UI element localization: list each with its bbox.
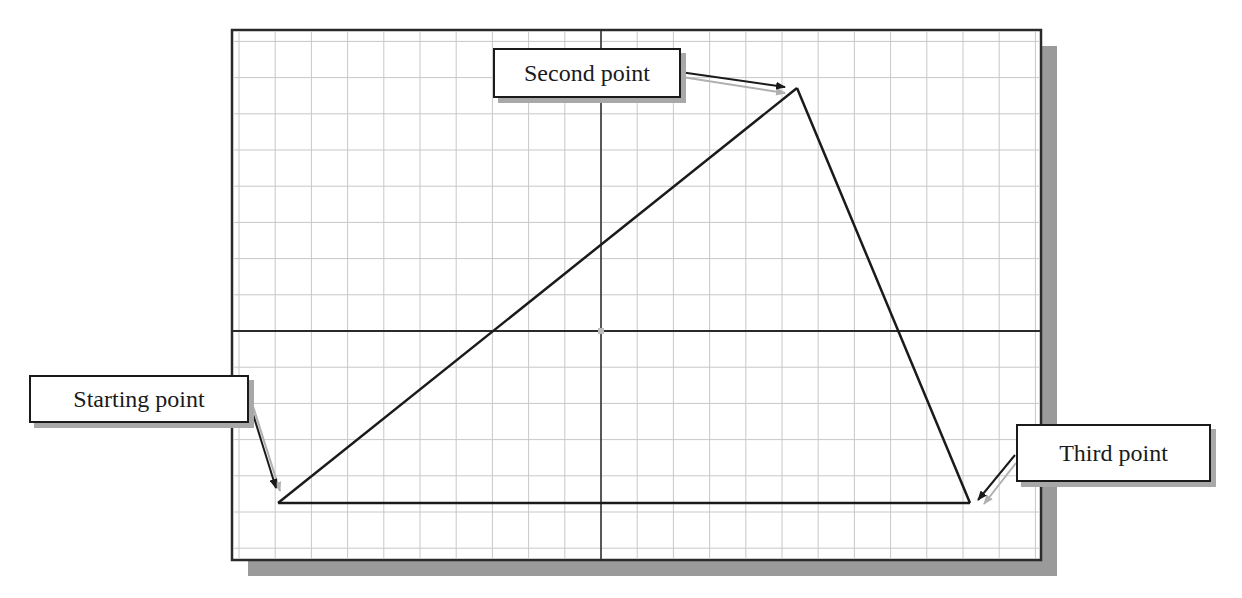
callout-starting-point: Starting point [29, 375, 249, 423]
callout-second-point: Second point [493, 48, 681, 98]
callout-starting-point-label: Starting point [73, 386, 204, 413]
callout-third-point-label: Third point [1059, 440, 1168, 467]
callout-third-point: Third point [1016, 424, 1211, 482]
callout-second-point-label: Second point [524, 60, 650, 87]
origin-marker [598, 328, 604, 334]
